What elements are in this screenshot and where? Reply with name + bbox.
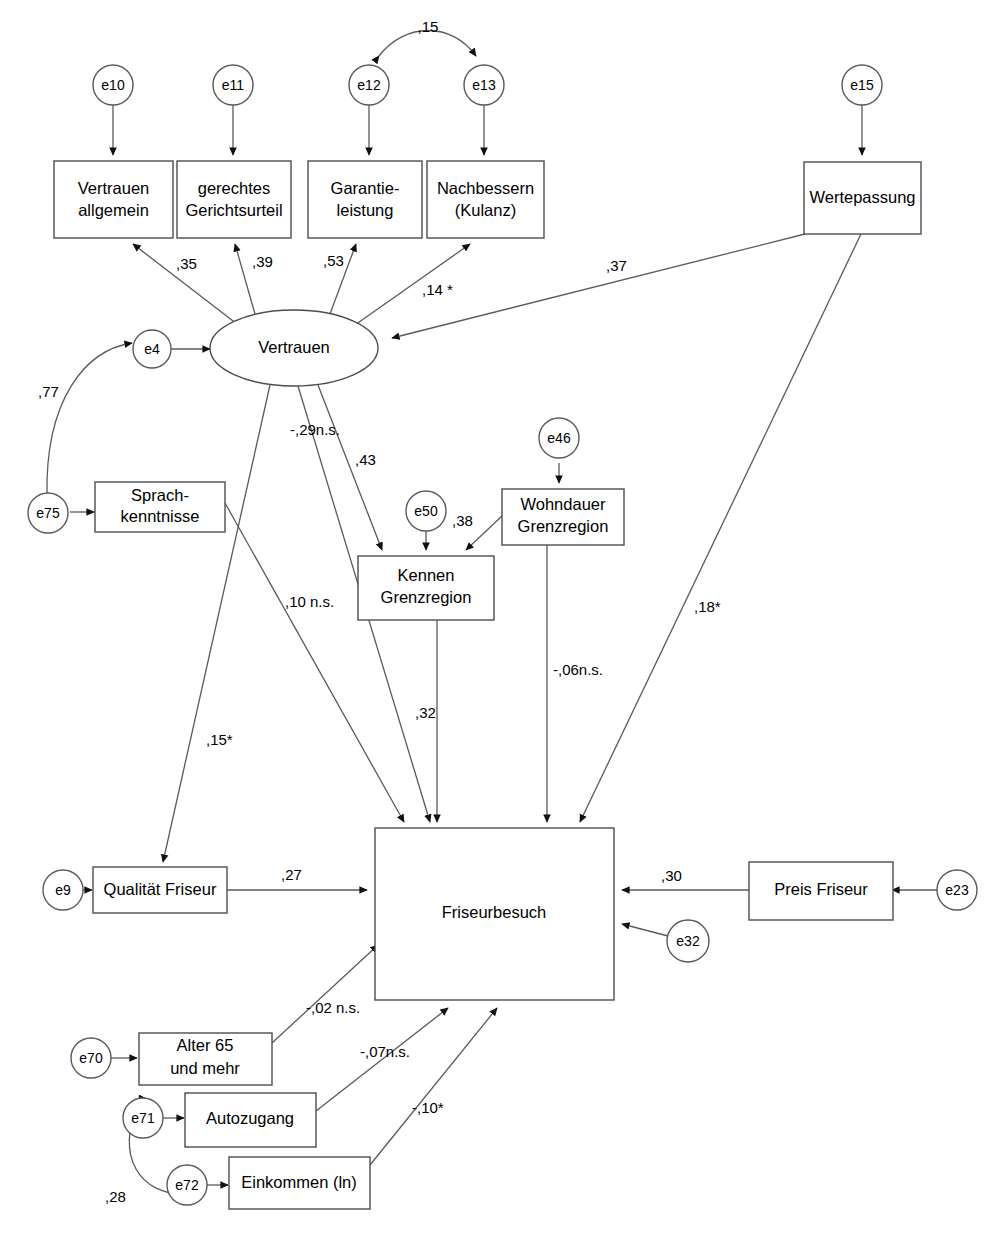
node-label-gerechtes-line1: gerechtes xyxy=(198,179,270,197)
node-label-nachbessern-line1: Nachbessern xyxy=(437,179,534,197)
node-gerechtes-gerichtsurteil[interactable]: gerechtes Gerichtsurteil xyxy=(177,161,291,238)
node-label-vertrauen-allgemein-line2: allgemein xyxy=(78,201,149,219)
error-label-e72: e72 xyxy=(175,1177,199,1193)
coef-e12-e13-cov: ,15 xyxy=(418,18,439,35)
error-node-e11[interactable]: e11 xyxy=(213,65,253,105)
error-node-e70[interactable]: e70 xyxy=(71,1038,111,1078)
node-wohndauer-grenzregion[interactable]: Wohndauer Grenzregion xyxy=(502,489,624,545)
coef-cov-e75-e4: ,77 xyxy=(38,383,59,400)
coef-einkommen-to-friseurbesuch: -,10* xyxy=(412,1099,444,1116)
coef-autozugang-to-friseurbesuch-ns: -,07n.s. xyxy=(360,1043,410,1060)
edge-cov-e75-e4 xyxy=(47,343,132,496)
edge-wertepassung-to-vertrauen xyxy=(392,234,805,338)
error-label-e10: e10 xyxy=(101,77,125,93)
coef-qualitaet-to-friseurbesuch: ,27 xyxy=(281,866,302,883)
node-friseurbesuch[interactable]: Friseurbesuch xyxy=(375,828,614,1000)
node-label-alter-line2: und mehr xyxy=(170,1059,240,1077)
coef-kennen-to-friseurbesuch: ,32 xyxy=(415,704,436,721)
coef-cov-e71-e72: ,28 xyxy=(105,1188,126,1205)
error-label-e13: e13 xyxy=(472,77,496,93)
edge-sprach-to-friseurbesuch xyxy=(225,503,404,822)
node-label-sprach-line1: Sprach- xyxy=(131,486,189,504)
node-label-garantie-line1: Garantie- xyxy=(331,179,400,197)
node-label-nachbessern-line2: (Kulanz) xyxy=(455,201,516,219)
node-label-wohndauer-line2: Grenzregion xyxy=(518,517,609,535)
node-label-kennen-line1: Kennen xyxy=(398,566,455,584)
node-label-alter-line1: Alter 65 xyxy=(177,1036,234,1054)
coef-preis-to-friseurbesuch: ,30 xyxy=(661,867,682,884)
error-node-e9[interactable]: e9 xyxy=(43,870,83,910)
edge-alter-to-friseurbesuch xyxy=(272,945,378,1043)
node-label-qualitaet: Qualität Friseur xyxy=(104,880,217,898)
node-einkommen[interactable]: Einkommen (ln) xyxy=(229,1157,370,1209)
error-label-e46: e46 xyxy=(547,430,571,446)
coef-wohndauer-to-friseurbesuch-ns: -,06n.s. xyxy=(553,661,603,678)
error-label-e71: e71 xyxy=(131,1110,155,1126)
error-label-e23: e23 xyxy=(945,882,969,898)
error-label-e9: e9 xyxy=(55,882,71,898)
node-label-sprach-line2: kenntnisse xyxy=(121,507,200,525)
coef-vertrauen-to-nachbessern: ,14 * xyxy=(422,281,453,298)
error-node-e10[interactable]: e10 xyxy=(93,65,133,105)
error-label-e11: e11 xyxy=(222,77,245,93)
sem-canvas: Vertrauen allgemein gerechtes Gerichtsur… xyxy=(0,0,988,1242)
coef-alter-to-friseurbesuch-ns: -,02 n.s. xyxy=(306,999,360,1016)
node-vertrauen-allgemein[interactable]: Vertrauen allgemein xyxy=(54,161,173,238)
coef-vertrauen-to-kennen: ,43 xyxy=(355,451,376,468)
coef-wohndauer-to-kennen: ,38 xyxy=(452,512,473,529)
error-node-e75[interactable]: e75 xyxy=(28,493,68,533)
node-label-einkommen: Einkommen (ln) xyxy=(241,1173,357,1191)
error-node-e50[interactable]: e50 xyxy=(406,491,446,531)
node-label-vertrauen: Vertrauen xyxy=(258,338,330,356)
coef-vertrauen-to-garantie: ,53 xyxy=(323,252,344,269)
node-label-autozugang: Autozugang xyxy=(206,1109,294,1127)
coef-vertrauen-to-vertrauen-allgemein: ,35 xyxy=(176,255,197,272)
error-node-e72[interactable]: e72 xyxy=(167,1165,207,1205)
coef-wertepassung-to-vertrauen: ,37 xyxy=(606,257,627,274)
node-nachbessern-kulanz[interactable]: Nachbessern (Kulanz) xyxy=(427,161,544,238)
node-label-wertepassung: Wertepassung xyxy=(809,188,915,206)
error-node-e71[interactable]: e71 xyxy=(123,1098,163,1138)
error-label-e50: e50 xyxy=(414,503,438,519)
error-label-e12: e12 xyxy=(357,77,381,93)
error-label-e32: e32 xyxy=(676,933,700,949)
node-wertepassung[interactable]: Wertepassung xyxy=(804,162,921,234)
error-node-e4[interactable]: e4 xyxy=(133,330,171,368)
coef-wertepassung-to-friseurbesuch: ,18* xyxy=(694,598,721,615)
node-label-preis: Preis Friseur xyxy=(774,880,868,898)
node-sprachkenntnisse[interactable]: Sprach- kenntnisse xyxy=(95,482,225,532)
error-node-e13[interactable]: e13 xyxy=(464,65,504,105)
node-alter-65[interactable]: Alter 65 und mehr xyxy=(139,1033,272,1085)
error-node-e32[interactable]: e32 xyxy=(667,920,709,962)
node-label-gerechtes-line2: Gerichtsurteil xyxy=(185,201,282,219)
error-label-e75: e75 xyxy=(36,505,60,521)
node-kennen-grenzregion[interactable]: Kennen Grenzregion xyxy=(358,556,494,620)
edge-vertrauen-to-qualitaet xyxy=(163,385,270,862)
sem-path-diagram: Vertrauen allgemein gerechtes Gerichtsur… xyxy=(0,0,988,1242)
edge-e32-to-friseurbesuch xyxy=(622,924,668,936)
error-label-e4: e4 xyxy=(144,341,160,357)
node-preis-friseur[interactable]: Preis Friseur xyxy=(749,862,893,920)
coef-vertrauen-to-gerechtes: ,39 xyxy=(252,253,273,270)
node-label-garantie-line2: leistung xyxy=(337,201,394,219)
error-label-e70: e70 xyxy=(79,1050,103,1066)
error-label-e15: e15 xyxy=(850,77,874,93)
node-garantieleistung[interactable]: Garantie- leistung xyxy=(308,161,422,238)
node-label-vertrauen-allgemein-line1: Vertrauen xyxy=(78,179,150,197)
coef-vertrauen-to-friseurbesuch-ns: -,29n.s. xyxy=(290,421,340,438)
edge-einkommen-to-friseurbesuch xyxy=(370,1008,497,1165)
node-label-wohndauer-line1: Wohndauer xyxy=(520,495,606,513)
node-autozugang[interactable]: Autozugang xyxy=(185,1093,316,1147)
error-node-e15[interactable]: e15 xyxy=(842,65,882,105)
node-label-friseurbesuch: Friseurbesuch xyxy=(442,903,547,921)
node-vertrauen-latent[interactable]: Vertrauen xyxy=(210,310,378,386)
coef-sprach-to-qualitaet: ,15* xyxy=(206,731,233,748)
error-node-e46[interactable]: e46 xyxy=(539,418,579,458)
node-label-kennen-line2: Grenzregion xyxy=(381,588,472,606)
node-qualitaet-friseur[interactable]: Qualität Friseur xyxy=(93,867,227,913)
coef-sprach-to-friseurbesuch-ns: ,10 n.s. xyxy=(285,593,334,610)
error-node-e12[interactable]: e12 xyxy=(349,65,389,105)
error-node-e23[interactable]: e23 xyxy=(937,870,977,910)
